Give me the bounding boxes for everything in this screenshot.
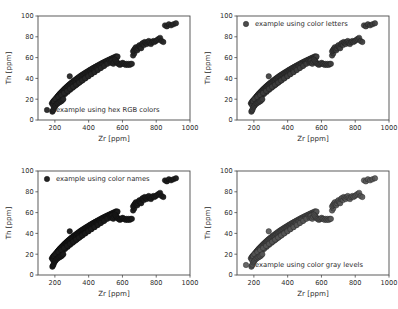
x-tick-label: 200 bbox=[248, 124, 261, 132]
y-tick-label: 20 bbox=[25, 96, 33, 104]
x-tick-label: 1000 bbox=[182, 279, 199, 287]
x-tick-label: 800 bbox=[349, 124, 362, 132]
scatter-series bbox=[49, 21, 179, 115]
scatter-grid-figure: 2004006008001000020406080100Zr [ppm]Th [… bbox=[0, 0, 398, 309]
y-tick-label: 80 bbox=[25, 33, 33, 41]
scatter-point bbox=[173, 21, 178, 26]
y-axis-title: Th [ppm] bbox=[203, 52, 212, 86]
y-tick-label: 20 bbox=[25, 251, 33, 259]
x-tick-label: 800 bbox=[349, 279, 362, 287]
scatter-series bbox=[49, 176, 179, 270]
y-tick-label: 80 bbox=[224, 188, 232, 196]
scatter-point bbox=[61, 251, 66, 256]
y-tick-label: 100 bbox=[220, 167, 233, 175]
legend-label: example using color names bbox=[56, 175, 150, 183]
scatter-point bbox=[260, 96, 265, 101]
legend-marker bbox=[44, 176, 49, 181]
x-tick-label: 1000 bbox=[381, 279, 398, 287]
y-axis-title: Th [ppm] bbox=[4, 52, 13, 86]
legend-marker bbox=[243, 21, 248, 26]
x-axis-title: Zr [ppm] bbox=[98, 289, 130, 298]
x-tick-label: 1000 bbox=[182, 124, 199, 132]
scatter-point bbox=[328, 216, 333, 221]
scatter-point bbox=[173, 176, 178, 181]
x-axis-title: Zr [ppm] bbox=[98, 134, 130, 143]
y-axis-title: Th [ppm] bbox=[203, 207, 212, 241]
x-axis-title: Zr [ppm] bbox=[297, 289, 329, 298]
x-tick-label: 400 bbox=[82, 124, 95, 132]
scatter-point bbox=[360, 194, 365, 199]
y-tick-label: 0 bbox=[228, 271, 232, 279]
x-tick-label: 600 bbox=[315, 279, 328, 287]
x-axis-title: Zr [ppm] bbox=[297, 134, 329, 143]
scatter-point bbox=[260, 251, 265, 256]
scatter-point bbox=[61, 96, 66, 101]
scatter-panel-bottom-left: 2004006008001000020406080100Zr [ppm]Th [… bbox=[0, 155, 199, 309]
scatter-series bbox=[248, 21, 378, 115]
scatter-point bbox=[328, 61, 333, 66]
y-axis-title: Th [ppm] bbox=[4, 207, 13, 241]
x-tick-label: 200 bbox=[49, 124, 62, 132]
y-tick-label: 20 bbox=[224, 251, 232, 259]
scatter-panel-bottom-right: 2004006008001000020406080100Zr [ppm]Th [… bbox=[199, 155, 398, 309]
x-tick-label: 600 bbox=[315, 124, 328, 132]
x-tick-label: 400 bbox=[281, 279, 294, 287]
scatter-series bbox=[248, 176, 378, 270]
y-tick-label: 20 bbox=[224, 96, 232, 104]
x-tick-label: 800 bbox=[150, 279, 163, 287]
y-tick-label: 80 bbox=[224, 33, 232, 41]
y-tick-label: 100 bbox=[21, 167, 34, 175]
y-tick-label: 0 bbox=[228, 116, 232, 124]
scatter-point bbox=[372, 21, 377, 26]
y-tick-label: 60 bbox=[224, 54, 232, 62]
x-tick-label: 600 bbox=[116, 279, 129, 287]
y-tick-label: 60 bbox=[25, 209, 33, 217]
scatter-point bbox=[266, 74, 271, 79]
x-tick-label: 400 bbox=[281, 124, 294, 132]
y-tick-label: 0 bbox=[29, 271, 33, 279]
y-tick-label: 60 bbox=[25, 54, 33, 62]
y-tick-label: 60 bbox=[224, 209, 232, 217]
scatter-point bbox=[129, 61, 134, 66]
scatter-point bbox=[161, 194, 166, 199]
x-tick-label: 600 bbox=[116, 124, 129, 132]
scatter-point bbox=[266, 229, 271, 234]
y-tick-label: 80 bbox=[25, 188, 33, 196]
y-tick-label: 40 bbox=[25, 75, 33, 83]
scatter-point bbox=[67, 74, 72, 79]
scatter-point bbox=[372, 176, 377, 181]
scatter-panel-top-right: 2004006008001000020406080100Zr [ppm]Th [… bbox=[199, 0, 398, 154]
scatter-point bbox=[129, 216, 134, 221]
y-tick-label: 100 bbox=[220, 12, 233, 20]
x-tick-label: 800 bbox=[150, 124, 163, 132]
legend-label: example using color letters bbox=[255, 20, 348, 28]
y-tick-label: 40 bbox=[224, 230, 232, 238]
x-tick-label: 200 bbox=[49, 279, 62, 287]
x-tick-label: 200 bbox=[248, 279, 261, 287]
x-tick-label: 1000 bbox=[381, 124, 398, 132]
legend-marker bbox=[243, 262, 248, 267]
scatter-panel-top-left: 2004006008001000020406080100Zr [ppm]Th [… bbox=[0, 0, 199, 154]
y-tick-label: 40 bbox=[224, 75, 232, 83]
scatter-point bbox=[67, 229, 72, 234]
y-tick-label: 40 bbox=[25, 230, 33, 238]
y-tick-label: 100 bbox=[21, 12, 34, 20]
scatter-point bbox=[360, 39, 365, 44]
legend-marker bbox=[44, 107, 49, 112]
scatter-point bbox=[161, 39, 166, 44]
legend-label: example using color gray levels bbox=[255, 261, 363, 269]
x-tick-label: 400 bbox=[82, 279, 95, 287]
legend-label: example using hex RGB colors bbox=[56, 106, 160, 114]
y-tick-label: 0 bbox=[29, 116, 33, 124]
